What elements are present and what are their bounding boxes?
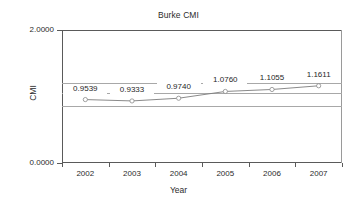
plot-area [62,30,342,163]
data-point-label-2006: 1.1055 [250,73,294,83]
chart-container: Burke CMI 2.00000.0000 20022003200420052… [0,0,357,205]
x-tick-5 [295,163,296,167]
y-tick-0 [57,30,62,31]
x-tick-label-2005: 2005 [205,169,245,178]
x-tick-label-2006: 2006 [252,169,292,178]
data-point-label-2002: 0.9539 [63,84,107,94]
data-point-label-2004: 0.9740 [157,82,201,92]
x-tick-0 [62,163,63,167]
x-tick-label-2004: 2004 [159,169,199,178]
x-tick-6 [342,163,343,167]
data-point-label-2003: 0.9333 [110,85,154,95]
y-axis-title: CMI [28,78,38,108]
plot-right-border [341,30,342,163]
y-tick-label-0.0000: 0.0000 [30,158,54,167]
x-tick-4 [249,163,250,167]
data-point-label-2005: 1.0760 [203,75,247,85]
x-tick-3 [202,163,203,167]
x-tick-2 [155,163,156,167]
x-tick-1 [109,163,110,167]
x-tick-label-2003: 2003 [112,169,152,178]
x-tick-label-2002: 2002 [65,169,105,178]
chart-title: Burke CMI [0,10,357,20]
gridline-2 [62,106,342,107]
data-point-label-2007: 1.1611 [297,70,341,80]
x-axis-title: Year [0,185,357,195]
y-tick-label-2.0000: 2.0000 [30,25,54,34]
x-tick-label-2007: 2007 [299,169,339,178]
